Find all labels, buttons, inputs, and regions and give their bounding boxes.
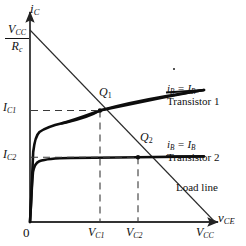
y-tick-vcc-over-rc: VCC Rc <box>3 23 31 54</box>
operating-point-q2-label: Q2 <box>140 131 153 145</box>
y-axis-title: iC <box>30 2 39 17</box>
origin-label: 0 <box>23 226 30 239</box>
transistor1-name-label: Transistor 1 <box>167 96 219 107</box>
q1-marker <box>98 108 102 112</box>
scan-speck-icon <box>173 68 175 70</box>
operating-point-q1-label: Q1 <box>99 86 112 100</box>
x-tick-vc2: VC2 <box>126 226 143 240</box>
y-tick-ic2: IC2 <box>3 148 16 162</box>
transistor2-name-label: Transistor 2 <box>167 152 219 163</box>
x-tick-vc1: VC1 <box>88 226 105 240</box>
transistor-load-line-figure: iC vCE VCC Rc IC1 IC2 0 VC1 VC2 VCC Q1 Q… <box>0 0 246 246</box>
x-tick-vcc: VCC <box>196 226 214 240</box>
load-line-label: Load line <box>176 182 218 193</box>
load-line <box>30 30 215 222</box>
y-tick-ic1: IC1 <box>3 101 16 115</box>
q2-marker <box>136 155 140 159</box>
figure-canvas <box>0 0 246 246</box>
x-axis-title: vCE <box>218 211 235 226</box>
